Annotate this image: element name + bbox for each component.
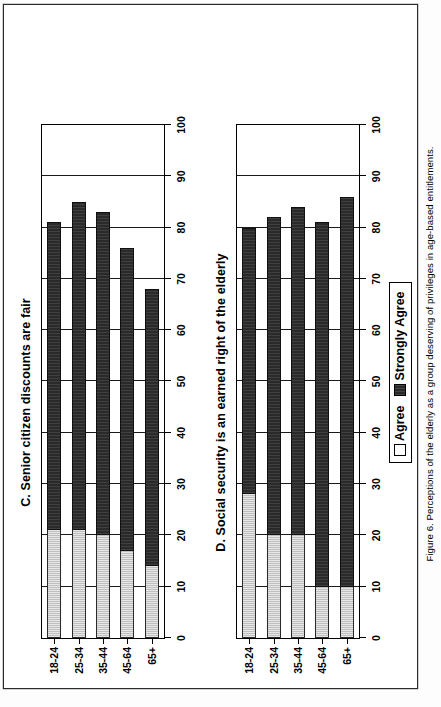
chart-d-title: D. Social security is an earned right of… xyxy=(214,114,228,691)
axis-tick-label: 40 xyxy=(175,426,187,438)
category-label: 18-24 xyxy=(47,647,61,674)
category-label: 25-34 xyxy=(266,647,280,674)
axis-tick-label: 90 xyxy=(175,170,187,182)
axis-tick-label: 40 xyxy=(370,426,382,438)
figure-caption-wrap: Figure 6. Perceptions of the elderly as … xyxy=(419,0,439,707)
category-label: 35-44 xyxy=(96,647,110,674)
axis-tick xyxy=(360,226,366,227)
bar-segment-agree xyxy=(339,586,353,637)
axis-tick-label: 10 xyxy=(175,580,187,592)
bar-row: 65+ xyxy=(144,289,158,638)
category-label: 65+ xyxy=(144,647,158,665)
axis-tick xyxy=(360,585,366,586)
axis-tick-label: 80 xyxy=(175,221,187,233)
gridline xyxy=(237,175,359,176)
axis-tick-label: 30 xyxy=(370,478,382,490)
rotated-figure-stage: C. Senior citizen discounts are fair 010… xyxy=(11,9,431,699)
bar-segment-agree xyxy=(71,530,85,638)
category-tick xyxy=(103,638,104,644)
category-tick xyxy=(298,638,299,644)
category-tick xyxy=(322,638,323,644)
axis-tick xyxy=(360,175,366,176)
axis-tick-label: 20 xyxy=(175,529,187,541)
category-tick xyxy=(78,638,79,644)
axis-tick xyxy=(360,124,366,125)
axis-tick xyxy=(165,380,171,381)
axis-tick xyxy=(360,431,366,432)
legend-swatch-strongly-agree xyxy=(394,383,406,395)
bar-segment-agree xyxy=(266,535,280,638)
axis-tick-label: 60 xyxy=(175,324,187,336)
axis-tick-label: 0 xyxy=(370,635,382,641)
category-tick xyxy=(273,638,274,644)
category-tick xyxy=(151,638,152,644)
axis-tick xyxy=(360,637,366,638)
axis-tick-label: 70 xyxy=(175,273,187,285)
category-label: 65+ xyxy=(339,647,353,665)
legend-item-strongly-agree: Strongly Agree xyxy=(393,291,407,395)
bar-row: 65+ xyxy=(339,196,353,637)
category-tick xyxy=(346,638,347,644)
axis-tick xyxy=(165,175,171,176)
category-label: 45-64 xyxy=(315,647,329,674)
axis-tick xyxy=(165,534,171,535)
axis-tick xyxy=(165,124,171,125)
bar-segment-agree xyxy=(144,566,158,638)
bar-segment-strongly-agree xyxy=(47,222,61,530)
axis-tick-label: 60 xyxy=(370,324,382,336)
bar-row: 18-24 xyxy=(47,222,61,638)
axis-tick-label: 50 xyxy=(370,375,382,387)
category-tick xyxy=(249,638,250,644)
chart-c-title: C. Senior citizen discounts are fair xyxy=(19,114,33,691)
bar-row: 25-34 xyxy=(266,217,280,638)
category-label: 35-44 xyxy=(291,647,305,674)
category-label: 18-24 xyxy=(242,647,256,674)
axis-tick xyxy=(360,329,366,330)
axis-tick xyxy=(165,277,171,278)
axis-tick xyxy=(165,483,171,484)
bar-segment-strongly-agree xyxy=(71,201,85,529)
bar-segment-agree xyxy=(315,586,329,637)
bar-segment-strongly-agree xyxy=(144,289,158,566)
category-label: 45-64 xyxy=(120,647,134,674)
legend-label-strongly-agree: Strongly Agree xyxy=(393,291,407,380)
bar-row: 35-44 xyxy=(291,207,305,638)
axis-tick xyxy=(165,637,171,638)
bar-segment-strongly-agree xyxy=(339,196,353,586)
category-tick xyxy=(127,638,128,644)
axis-tick-label: 10 xyxy=(370,580,382,592)
axis-tick-label: 100 xyxy=(175,116,187,134)
chart-d: D. Social security is an earned right of… xyxy=(216,114,376,691)
category-label: 25-34 xyxy=(71,647,85,674)
axis-tick xyxy=(165,226,171,227)
bar-segment-strongly-agree xyxy=(96,212,110,535)
bar-segment-strongly-agree xyxy=(120,248,134,551)
axis-tick-label: 30 xyxy=(175,478,187,490)
axis-tick-label: 20 xyxy=(370,529,382,541)
legend-item-agree: Agree xyxy=(393,405,407,455)
bar-segment-strongly-agree xyxy=(242,227,256,494)
bar-row: 25-34 xyxy=(71,201,85,637)
axis-tick xyxy=(165,329,171,330)
bar-segment-agree xyxy=(120,550,134,637)
legend-label-agree: Agree xyxy=(393,405,407,440)
axis-tick xyxy=(360,380,366,381)
chart-c: C. Senior citizen discounts are fair 010… xyxy=(21,114,181,691)
bar-row: 45-64 xyxy=(120,248,134,638)
axis-tick-label: 70 xyxy=(370,273,382,285)
bar-segment-strongly-agree xyxy=(291,207,305,535)
chart-d-plot-area: 010203040506070809010018-2425-3435-4445-… xyxy=(236,124,360,639)
axis-tick xyxy=(360,534,366,535)
axis-tick-label: 100 xyxy=(370,116,382,134)
figure-caption: Figure 6. Perceptions of the elderly as … xyxy=(424,146,435,561)
axis-tick-label: 80 xyxy=(370,221,382,233)
axis-tick xyxy=(165,431,171,432)
scanned-page: C. Senior citizen discounts are fair 010… xyxy=(0,0,441,707)
axis-tick-label: 0 xyxy=(175,635,187,641)
legend-swatch-agree xyxy=(394,444,406,456)
bar-row: 18-24 xyxy=(242,227,256,637)
bar-segment-agree xyxy=(96,535,110,638)
axis-tick xyxy=(360,277,366,278)
chart-c-plot-area: 010203040506070809010018-2425-3435-4445-… xyxy=(41,124,165,639)
bar-row: 45-64 xyxy=(315,222,329,638)
